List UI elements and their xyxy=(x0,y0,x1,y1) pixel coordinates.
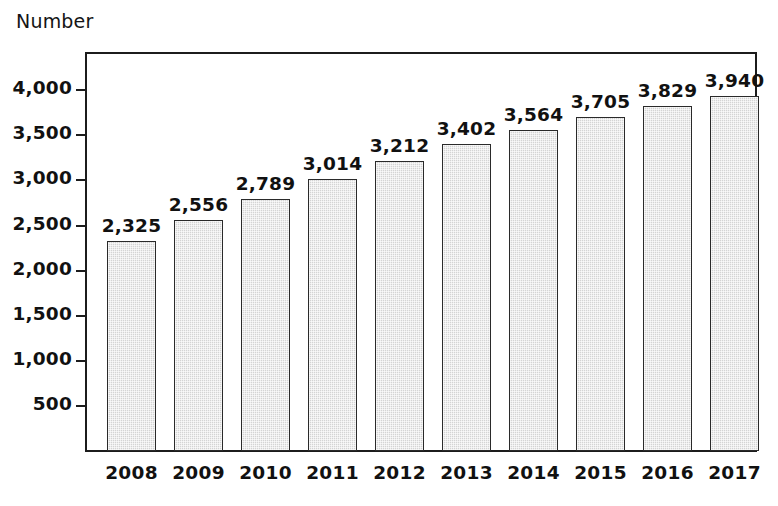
x-axis-category-label: 2012 xyxy=(361,462,438,483)
x-axis-category-label: 2009 xyxy=(160,462,237,483)
y-axis-tick-label: 2,000 xyxy=(0,258,72,279)
x-axis-category-label: 2017 xyxy=(696,462,773,483)
y-axis-tick-label: 1,000 xyxy=(0,348,72,369)
y-axis-tick-label: 500 xyxy=(0,393,72,414)
y-axis-tick-label: 4,000 xyxy=(0,77,72,98)
bar xyxy=(107,241,156,451)
bar xyxy=(241,199,290,451)
bar-value-label: 2,325 xyxy=(93,215,170,236)
y-axis-tick-label: 2,500 xyxy=(0,213,72,234)
bar-value-label: 3,940 xyxy=(696,70,773,91)
y-axis-tick-label: 1,500 xyxy=(0,303,72,324)
bar-value-label: 3,402 xyxy=(428,118,505,139)
bar-value-label: 2,556 xyxy=(160,194,237,215)
bar xyxy=(643,106,692,451)
x-axis-category-label: 2016 xyxy=(629,462,706,483)
bar xyxy=(174,220,223,451)
y-axis-title: Number xyxy=(16,10,94,32)
bar-value-label: 3,564 xyxy=(495,104,572,125)
x-axis-category-label: 2014 xyxy=(495,462,572,483)
y-axis-tick-label: 3,500 xyxy=(0,122,72,143)
bar-value-label: 3,705 xyxy=(562,91,639,112)
x-axis-category-label: 2008 xyxy=(93,462,170,483)
bar xyxy=(509,130,558,451)
x-axis-category-label: 2013 xyxy=(428,462,505,483)
bar-value-label: 3,014 xyxy=(294,153,371,174)
bar-value-label: 3,212 xyxy=(361,135,438,156)
bar-value-label: 2,789 xyxy=(227,173,304,194)
bar-value-label: 3,829 xyxy=(629,80,706,101)
x-axis-category-label: 2015 xyxy=(562,462,639,483)
x-axis-category-label: 2010 xyxy=(227,462,304,483)
bar xyxy=(308,179,357,451)
bar xyxy=(576,117,625,451)
y-axis-tick-label: 3,000 xyxy=(0,167,72,188)
bar xyxy=(442,144,491,451)
bar xyxy=(710,96,759,451)
x-axis-category-label: 2011 xyxy=(294,462,371,483)
bar xyxy=(375,161,424,451)
